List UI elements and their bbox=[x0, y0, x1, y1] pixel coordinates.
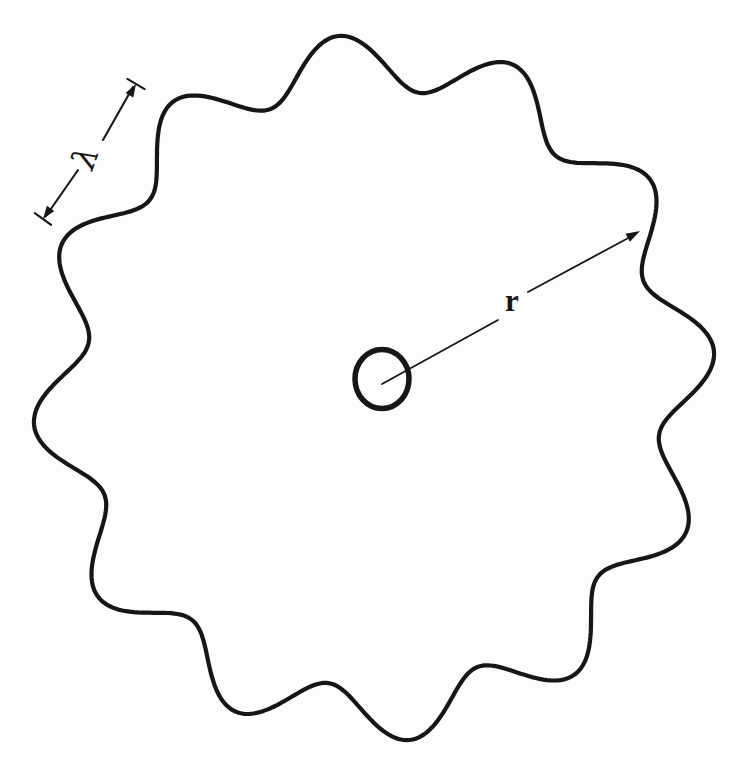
radius-line-outer-segment bbox=[528, 236, 632, 292]
orbit-wave-figure: r λ bbox=[0, 0, 745, 761]
diagram-canvas bbox=[0, 0, 745, 761]
radius-label: r bbox=[505, 283, 519, 319]
nucleus-circle bbox=[355, 350, 409, 409]
radius-line-inner-segment bbox=[382, 320, 498, 384]
radius-arrowhead-icon bbox=[626, 231, 640, 242]
wavy-orbit-path bbox=[34, 36, 714, 740]
wavelength-upper-end-tick bbox=[127, 79, 144, 89]
wavelength-dim-upper-segment bbox=[103, 87, 133, 140]
